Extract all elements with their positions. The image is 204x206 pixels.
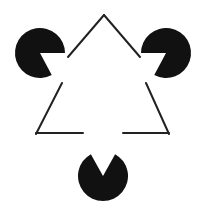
kanizsa-figure-root — [0, 0, 204, 206]
kanizsa-figure-canvas — [0, 0, 204, 206]
